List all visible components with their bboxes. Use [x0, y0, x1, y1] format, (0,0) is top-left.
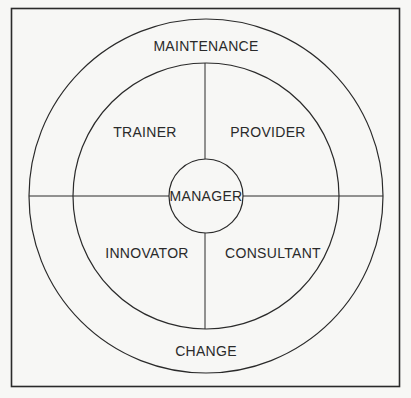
label-provider: PROVIDER — [230, 124, 306, 140]
label-consultant: CONSULTANT — [225, 245, 321, 261]
label-change: CHANGE — [175, 343, 237, 359]
label-manager: MANAGER — [170, 188, 243, 204]
label-maintenance: MAINTENANCE — [153, 38, 258, 54]
label-trainer: TRAINER — [113, 124, 177, 140]
label-innovator: INNOVATOR — [105, 245, 189, 261]
roles-diagram: MAINTENANCE CHANGE TRAINER PROVIDER INNO… — [0, 0, 411, 398]
